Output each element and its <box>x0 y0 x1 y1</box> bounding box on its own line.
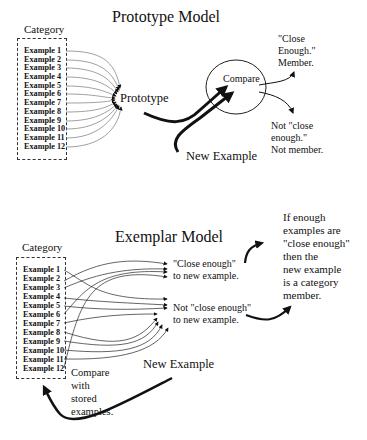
exemplar-arrows <box>0 0 367 440</box>
